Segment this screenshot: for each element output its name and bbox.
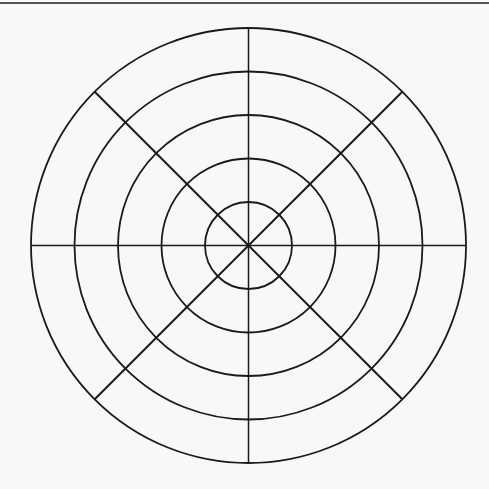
polar-grid-diagram	[0, 0, 489, 489]
radial-spokes	[31, 28, 466, 463]
